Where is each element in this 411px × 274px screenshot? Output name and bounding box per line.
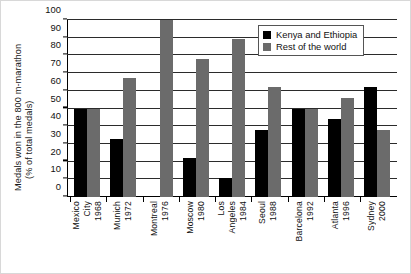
bar-group: [110, 20, 136, 197]
bar-group: [74, 20, 100, 197]
bar: [87, 109, 100, 198]
y-axis-tick-label: 100: [45, 4, 67, 15]
y-axis-tick-label: 60: [51, 74, 67, 85]
x-axis-label-line: Los: [216, 201, 227, 215]
x-axis-label: LosAngeles1984: [219, 201, 245, 273]
x-axis-label: Barcelona1992: [292, 201, 318, 273]
bar: [268, 87, 281, 197]
x-axis-label: MexicoCity1968: [74, 201, 100, 273]
y-axis-tick-label: 30: [51, 127, 67, 138]
bar-group: [183, 20, 209, 197]
bar-group: [219, 20, 245, 197]
y-axis-tick-label: 80: [51, 39, 67, 50]
x-axis-labels: MexicoCity1968Munich1972Montreal1976Mosc…: [67, 201, 397, 273]
x-axis-label-line: Sydney: [366, 201, 377, 231]
legend-item: Rest of the world: [263, 41, 357, 52]
x-axis-label-line: 1992: [305, 201, 316, 221]
bar: [292, 109, 305, 198]
bar: [219, 178, 232, 197]
x-axis-label-line: 1972: [123, 201, 134, 221]
x-axis-label-line: 1980: [196, 201, 207, 221]
x-axis-label-line: 1968: [93, 201, 104, 221]
x-axis-label: Sydney2000: [364, 201, 390, 273]
bar: [377, 130, 390, 197]
y-axis-tick-label: 90: [51, 21, 67, 32]
bar: [196, 59, 209, 197]
bar: [110, 139, 123, 197]
x-axis-label-line: 1996: [341, 201, 352, 221]
bar: [160, 20, 173, 197]
bar: [305, 109, 318, 198]
x-axis-label-line: Atlanta: [330, 201, 341, 229]
bar: [123, 78, 136, 197]
y-axis-tick-label: 70: [51, 57, 67, 68]
y-axis-title-line-1: Medals won in the 800 m-marathon: [13, 44, 23, 191]
legend-swatch-icon: [263, 31, 271, 39]
x-axis-label: Seoul1988: [255, 201, 281, 273]
bar: [341, 98, 354, 197]
y-axis-title: Medals won in the 800 m-marathon (% of t…: [1, 1, 43, 201]
legend-item: Kenya and Ethiopia: [263, 29, 357, 40]
bar: [232, 39, 245, 197]
x-axis-label-line: Mexico: [71, 201, 82, 229]
x-axis-label-line: Barcelona: [294, 201, 305, 242]
x-axis-label-line: Angeles: [227, 201, 238, 233]
bar: [74, 109, 87, 198]
y-axis-tick-label: 0: [56, 181, 67, 192]
x-axis-label-line: 1988: [268, 201, 279, 221]
x-axis-label: Moscow1980: [183, 201, 209, 273]
x-axis-label: Munich1972: [110, 201, 136, 273]
y-axis-title-line-2: (% of total medals): [24, 101, 34, 180]
y-axis-tick-label: 50: [51, 92, 67, 103]
bar-group: [147, 20, 173, 197]
x-axis-label-line: 1984: [238, 201, 249, 221]
bar: [328, 119, 341, 197]
x-axis-label-line: Munich: [112, 201, 123, 230]
bar: [183, 158, 196, 197]
x-axis-label-line: 2000: [377, 201, 388, 221]
x-axis-label-line: 1976: [160, 201, 171, 221]
x-axis-label: Montreal1976: [147, 201, 173, 273]
bar: [364, 87, 377, 197]
legend-item-label: Rest of the world: [276, 41, 346, 52]
chart-legend: Kenya and EthiopiaRest of the world: [258, 25, 364, 56]
bar: [255, 130, 268, 197]
x-axis-label-line: Seoul: [257, 201, 268, 224]
legend-swatch-icon: [263, 43, 271, 51]
x-axis-label: Atlanta1996: [328, 201, 354, 273]
x-axis-label-line: Moscow: [185, 201, 196, 234]
bar-group: [364, 20, 390, 197]
y-axis-tick-label: 40: [51, 110, 67, 121]
x-axis-label-line: Montreal: [149, 201, 160, 236]
legend-item-label: Kenya and Ethiopia: [276, 29, 357, 40]
chart-figure: Medals won in the 800 m-marathon (% of t…: [0, 0, 411, 274]
y-axis-tick-label: 20: [51, 145, 67, 156]
x-axis-label-line: City: [82, 201, 93, 217]
y-axis-tick-label: 10: [51, 163, 67, 174]
